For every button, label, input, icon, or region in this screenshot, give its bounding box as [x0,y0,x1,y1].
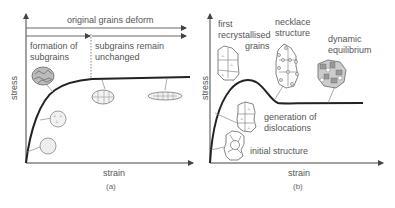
dense-subgrain-grain-icon [32,67,54,92]
first-recrystallised-label: first recrystallised grains [218,19,271,52]
panel-b-x-label: strain [288,168,310,179]
flattened-subgrain-grain-icon [148,78,182,100]
region-1-label: formation of subgrains [30,41,78,63]
first-line3: grains [218,41,271,52]
dynamic-line2: equilibrium [328,45,372,56]
dynamic-equilibrium-cluster-icon [318,60,346,103]
first-line1: first [218,19,271,30]
generation-line2: dislocations [264,123,317,134]
panel-a-y-label: stress [9,76,19,100]
panel-a: ⊥ ⊥ ⊥ [26,14,193,163]
panel-b-caption: (b) [293,182,303,191]
region-2-line2: unchanged [95,52,164,63]
generation-line1: generation of [264,112,317,123]
elongated-subgrain-grain-icon [92,80,114,104]
first-line2: recrystallised [218,30,271,41]
panel-a-x-label: strain [103,168,125,179]
necklace-line2: structure [275,28,311,39]
dynamic-equilibrium-label: dynamic equilibrium [328,34,372,56]
necklace-label: necklace structure [275,17,311,39]
region-2-line1: subgrains remain [95,41,164,52]
top-span-label: original grains deform [67,15,154,26]
necklace-line1: necklace [275,17,311,28]
region-2-label: subgrains remain unchanged [95,41,164,63]
initial-structure-label: initial structure [250,146,308,157]
panel-a-caption: (a) [106,182,116,191]
initial-grain-icon [27,138,56,154]
region-1-line2: subgrains [30,52,78,63]
dynamic-line1: dynamic [328,34,372,45]
region-1-line1: formation of [30,41,78,52]
generation-label: generation of dislocations [264,112,317,134]
dislocation-grain-icon: ⊥ ⊥ ⊥ [40,111,66,127]
diagram-canvas: ⊥ ⊥ ⊥ [0,0,395,208]
initial-structure-cluster-icon [211,131,244,160]
panel-b-y-label: stress [200,76,210,100]
necklace-cluster-icon [275,44,299,99]
